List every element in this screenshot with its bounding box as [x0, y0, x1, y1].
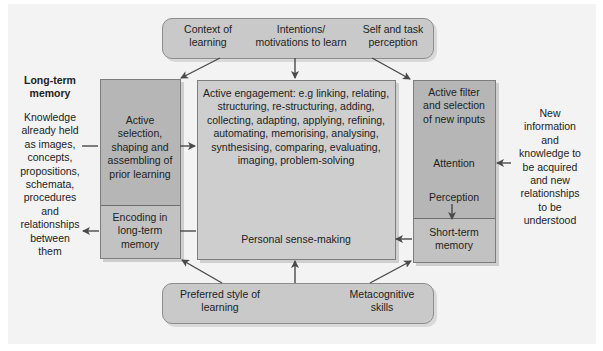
text-line: to be	[512, 201, 588, 214]
text-line: as images,	[8, 138, 92, 151]
section-divider	[414, 218, 495, 219]
text-line: and selection	[413, 99, 495, 112]
text-line: already held	[8, 124, 92, 137]
text-line: structuring, re-structuring, adding,	[197, 100, 395, 113]
text-line: Knowledge	[8, 111, 92, 124]
text-line: them	[8, 245, 92, 258]
text-line: Active	[100, 114, 180, 127]
text-line: Active filter	[413, 86, 495, 99]
new-information-description: New information and knowledge to be acqu…	[512, 107, 588, 228]
active-engagement-text: Active engagement: e.g linking, relating…	[197, 87, 395, 167]
text-line: synthesising, comparing, evaluating,	[197, 141, 395, 154]
text-line: assembling of	[100, 154, 180, 167]
text-line: and	[512, 134, 588, 147]
text-line: Active engagement: e.g linking, relating…	[197, 87, 395, 100]
text-line: and	[8, 205, 92, 218]
text-line: Short-term	[413, 226, 495, 239]
text-line: memory	[100, 238, 180, 251]
text-line: New	[512, 107, 588, 120]
label-line: Self and task	[355, 23, 431, 36]
personal-sense-making-label: Personal sense-making	[197, 233, 395, 246]
long-term-memory-title: Long-term memory	[8, 74, 92, 101]
label-line: motivations to learn	[245, 36, 357, 49]
text-line: knowledge to	[512, 147, 588, 160]
text-line: relationships	[8, 218, 92, 231]
label-line: Intentions/	[245, 23, 357, 36]
active-selection-label: Active selection, shaping and assembling…	[100, 114, 180, 181]
text-line: memory	[413, 239, 495, 252]
preferred-style-label: Preferred style of learning	[170, 288, 270, 315]
label-line: perception	[355, 36, 431, 49]
text-line: selection,	[100, 127, 180, 140]
text-line: between	[8, 232, 92, 245]
text-line: understood	[512, 214, 588, 227]
text-line: schemata,	[8, 178, 92, 191]
label-line: Metacognitive	[342, 288, 422, 301]
label-line: learning	[170, 301, 270, 314]
text-line: procedures	[8, 191, 92, 204]
text-line: Encoding in	[100, 211, 180, 224]
label-line: skills	[342, 301, 422, 314]
label-line: learning	[170, 36, 246, 49]
active-filter-label: Active filter and selection of new input…	[413, 86, 495, 126]
text-line: automating, memorising, analysing,	[197, 127, 395, 140]
label-line: Context of	[170, 23, 246, 36]
text-line: propositions,	[8, 165, 92, 178]
text-line: collecting, adapting, applying, refining…	[197, 114, 395, 127]
encoding-long-term-label: Encoding in long-term memory	[100, 211, 180, 251]
text-line: of new inputs	[413, 113, 495, 126]
text-line: imaging, problem-solving	[197, 154, 395, 167]
text-line: shaping and	[100, 141, 180, 154]
section-divider	[101, 205, 180, 206]
short-term-memory-label: Short-term memory	[413, 226, 495, 253]
attention-label: Attention	[413, 157, 495, 170]
text-line: be acquired	[512, 161, 588, 174]
label-line: Preferred style of	[170, 288, 270, 301]
perception-label: Perception	[413, 191, 495, 204]
long-term-memory-description: Knowledge already held as images, concep…	[8, 111, 92, 258]
metacognitive-skills-label: Metacognitive skills	[342, 288, 422, 315]
text-line: long-term	[100, 224, 180, 237]
text-line: and new	[512, 174, 588, 187]
text-line: prior learning	[100, 168, 180, 181]
text-line: information	[512, 120, 588, 133]
text-line: concepts,	[8, 151, 92, 164]
title-line: memory	[8, 87, 92, 100]
self-task-perception-label: Self and task perception	[355, 23, 431, 50]
intentions-motivations-label: Intentions/ motivations to learn	[245, 23, 357, 50]
context-of-learning-label: Context of learning	[170, 23, 246, 50]
text-line: relationships	[512, 187, 588, 200]
title-line: Long-term	[8, 74, 92, 87]
